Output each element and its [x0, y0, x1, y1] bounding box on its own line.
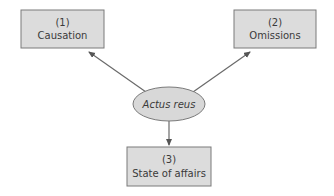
node-actus-reus: Actus reus [133, 87, 205, 121]
node-state-of-affairs: (3) State of affairs [127, 147, 211, 186]
node-causation: (1) Causation [21, 10, 104, 48]
node-causation-label: Causation [38, 30, 88, 41]
diagram-canvas: (1) Causation (2) Omissions Actus reus (… [0, 0, 334, 196]
node-omissions-label: Omissions [249, 30, 300, 41]
arrow-to-omissions [193, 52, 250, 92]
node-omissions-number: (2) [268, 17, 282, 28]
node-actus-reus-label: Actus reus [142, 99, 196, 110]
arrow-to-causation [89, 52, 146, 92]
node-state-of-affairs-number: (3) [162, 154, 176, 165]
node-causation-number: (1) [55, 17, 69, 28]
node-omissions: (2) Omissions [234, 10, 316, 48]
node-state-of-affairs-label: State of affairs [132, 168, 206, 179]
